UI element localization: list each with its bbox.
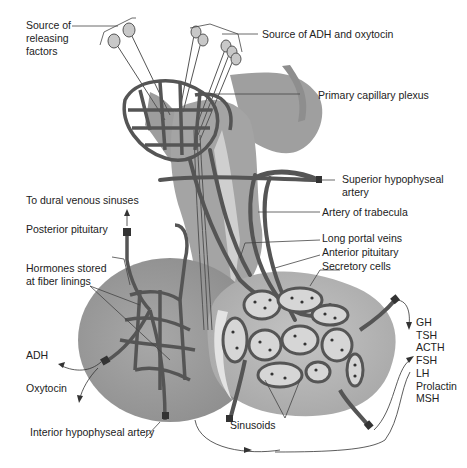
pituitary-diagram: Source of releasing factors Source of AD… <box>0 0 467 468</box>
hormone-fsh: FSH <box>416 354 457 367</box>
label-long-portal-veins: Long portal veins <box>322 232 402 245</box>
hormone-gh: GH <box>416 316 457 329</box>
label-anterior-pituitary: Anterior pituitary <box>322 246 398 259</box>
label-source-adh-oxytocin: Source of ADH and oxytocin <box>262 28 393 41</box>
hormone-acth: ACTH <box>416 341 457 354</box>
label-secretory-cells: Secretory cells <box>322 260 391 273</box>
label-artery-of-trabecula: Artery of trabecula <box>322 206 408 219</box>
label-posterior-pituitary: Posterior pituitary <box>26 223 108 236</box>
label-to-dural-venous-sinuses: To dural venous sinuses <box>26 194 139 207</box>
hormone-tsh: TSH <box>416 329 457 342</box>
superior-artery-cut <box>316 176 322 183</box>
hormone-lh: LH <box>416 367 457 380</box>
label-hormones-stored: Hormones stored at fiber linings <box>26 262 110 288</box>
label-sinusoids: Sinusoids <box>230 419 276 432</box>
anterior-hormone-list: GH TSH ACTH FSH LH Prolactin MSH <box>416 316 457 405</box>
label-superior-hypophyseal-artery: Superior hypophyseal artery <box>342 173 462 199</box>
label-primary-capillary-plexus: Primary capillary plexus <box>318 89 429 102</box>
label-source-releasing-factors: Source of releasing factors <box>26 19 96 58</box>
hormone-prolactin: Prolactin <box>416 380 457 393</box>
hormone-msh: MSH <box>416 392 457 405</box>
label-adh: ADH <box>26 349 48 362</box>
dural-sinus-vessel-cut <box>123 228 131 236</box>
inferior-artery-cut <box>162 412 169 419</box>
label-oxytocin: Oxytocin <box>26 382 67 395</box>
label-inferior-hypophyseal-artery: Interior hypophyseal artery <box>30 426 154 439</box>
